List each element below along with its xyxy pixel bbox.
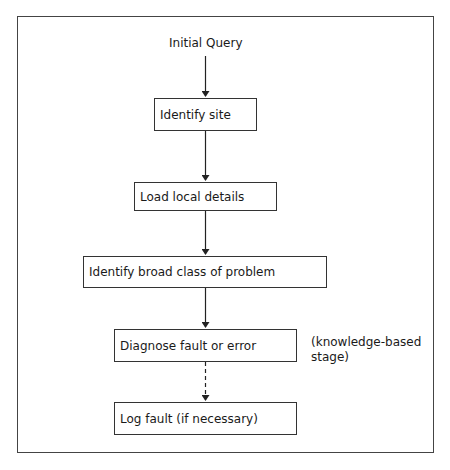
step-label: Diagnose fault or error	[120, 339, 256, 353]
annotation-line-1: (knowledge-based	[311, 335, 421, 350]
start-label: Initial Query	[169, 36, 243, 51]
connector-arrows	[0, 0, 450, 470]
step-log-fault: Log fault (if necessary)	[114, 402, 297, 435]
annotation-knowledge-based: (knowledge-based stage)	[311, 335, 421, 365]
step-identify-site: Identify site	[154, 98, 257, 131]
step-label: Load local details	[140, 190, 244, 204]
step-label: Identify site	[160, 108, 231, 122]
step-label: Log fault (if necessary)	[120, 412, 258, 426]
step-load-local-details: Load local details	[134, 182, 277, 211]
step-diagnose-fault: Diagnose fault or error	[114, 329, 297, 362]
step-label: Identify broad class of problem	[89, 265, 275, 279]
step-identify-broad-class: Identify broad class of problem	[83, 256, 327, 288]
annotation-line-2: stage)	[311, 350, 421, 365]
